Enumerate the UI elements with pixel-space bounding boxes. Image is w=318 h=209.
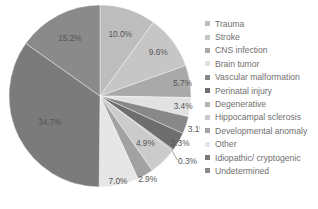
legend-label: Trauma (215, 19, 244, 29)
legend-label: Undetermined (215, 166, 269, 176)
legend-swatch (205, 102, 210, 107)
legend-label: Developmental anomaly (215, 126, 307, 136)
legend-swatch (205, 142, 210, 147)
slice-value-label: 10.0% (108, 29, 132, 39)
legend-swatch (205, 168, 210, 173)
legend-item-degenerative: Degenerative (205, 97, 307, 110)
legend-label: Idiopathic/ cryptogenic (215, 153, 301, 163)
legend-swatch (205, 21, 210, 26)
slice-value-label: 0.3% (178, 156, 198, 166)
slice-value-label: 5.7% (173, 78, 193, 88)
slice-value-label: 3.1% (188, 124, 200, 134)
legend-swatch (205, 35, 210, 40)
slice-value-label: 15.2% (58, 33, 82, 43)
slice-value-label: 3.3% (171, 138, 191, 148)
legend-item-cns-infection: CNS infection (205, 44, 307, 57)
legend-item-stroke: Stroke (205, 30, 307, 43)
legend-swatch (205, 48, 210, 53)
legend-item-perinatal-injury: Perinatal injury (205, 84, 307, 97)
legend-item-brain-tumor: Brain tumor (205, 57, 307, 70)
legend-label: Other (215, 139, 237, 149)
legend-label: CNS infection (215, 45, 268, 55)
slice-value-label: 7.0% (109, 176, 129, 186)
legend-item-hippocampal-sclerosis: Hippocampal sclerosis (205, 111, 307, 124)
legend-swatch (205, 128, 210, 133)
legend-label: Stroke (215, 32, 240, 42)
legend-label: Vascular malformation (215, 72, 300, 82)
legend-label: Brain tumor (215, 59, 259, 69)
legend: Trauma Stroke CNS infection Brain tumor … (205, 17, 307, 178)
legend-item-idiopathic-cryptogenic: Idiopathic/ cryptogenic (205, 151, 307, 164)
legend-item-undetermined: Undetermined (205, 164, 307, 177)
slice-value-label: 34.7% (38, 117, 62, 127)
slice-value-label: 2.9% (138, 174, 158, 184)
legend-label: Hippocampal sclerosis (215, 112, 301, 122)
legend-swatch (205, 155, 210, 160)
legend-item-developmental-anomaly: Developmental anomaly (205, 124, 307, 137)
legend-swatch (205, 75, 210, 80)
legend-item-trauma: Trauma (205, 17, 307, 30)
legend-item-vascular-malformation: Vascular malformation (205, 71, 307, 84)
pie-chart: 10.0%9.6%5.7%3.4%3.1%3.3%0.3%4.9%2.9%7.0… (0, 0, 200, 209)
legend-swatch (205, 115, 210, 120)
slice-value-label: 3.4% (174, 101, 194, 111)
slice-value-label: 9.6% (149, 47, 169, 57)
legend-swatch (205, 61, 210, 66)
legend-item-other: Other (205, 138, 307, 151)
slice-value-label: 4.9% (136, 138, 156, 148)
legend-swatch (205, 88, 210, 93)
legend-label: Degenerative (215, 99, 266, 109)
legend-label: Perinatal injury (215, 86, 272, 96)
